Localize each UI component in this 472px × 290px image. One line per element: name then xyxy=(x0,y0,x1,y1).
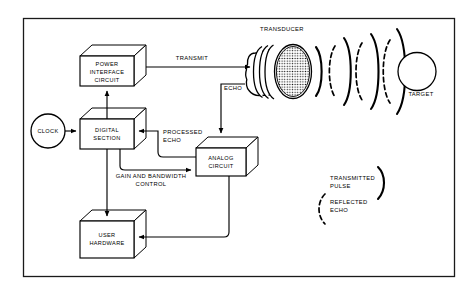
node-analog-circuit[interactable]: ANALOG CIRCUIT xyxy=(196,137,258,176)
legend-transmitted-pulse-line-2: PULSE xyxy=(330,183,351,189)
wire-echo xyxy=(221,84,245,133)
transmitted-arc-1 xyxy=(316,47,322,96)
gain-bandwidth-label-line-2: CONTROL xyxy=(136,181,167,187)
transmitted-arc-3 xyxy=(371,34,379,109)
analog-circuit-front-face xyxy=(196,148,246,176)
node-power-interface-circuit[interactable]: POWER INTERFACE CIRCUIT xyxy=(80,45,146,86)
analog-circuit-label-line-1: ANALOG xyxy=(208,155,233,161)
legend: TRANSMITTED PULSE REFLECTED ECHO xyxy=(319,167,384,224)
wavefronts-reflected xyxy=(329,40,390,103)
legend-reflected-echo-arc xyxy=(319,194,325,224)
legend-reflected-echo-line-1: REFLECTED xyxy=(330,199,368,205)
power-interface-label-line-3: CIRCUIT xyxy=(94,77,119,83)
power-interface-label-line-2: INTERFACE xyxy=(90,69,125,75)
node-transducer[interactable]: TRANSDUCER xyxy=(246,26,312,99)
node-digital-section[interactable]: DIGITAL SECTION xyxy=(80,108,146,149)
transmitted-arc-2 xyxy=(344,38,351,105)
reflected-arc-1 xyxy=(329,46,335,97)
gain-bandwidth-label-line-1: GAIN AND BANDWIDTH xyxy=(116,173,187,179)
legend-transmitted-pulse-arc xyxy=(378,167,384,199)
transmit-label: TRANSMIT xyxy=(176,55,209,61)
analog-circuit-label-line-2: CIRCUIT xyxy=(208,163,233,169)
figure-canvas: POWER INTERFACE CIRCUIT DIGITAL SECTION … xyxy=(0,0,472,290)
power-interface-label-line-1: POWER xyxy=(96,61,119,67)
legend-transmitted-pulse-line-1: TRANSMITTED xyxy=(330,175,375,181)
target-circle xyxy=(398,53,436,91)
echo-label: ECHO xyxy=(224,85,242,91)
transducer-face-stipple xyxy=(276,47,309,97)
digital-section-front-face xyxy=(80,119,134,149)
legend-reflected-echo: REFLECTED ECHO xyxy=(319,194,368,224)
block-diagram: POWER INTERFACE CIRCUIT DIGITAL SECTION … xyxy=(0,0,472,290)
wire-gain-bandwidth-control xyxy=(120,149,191,170)
node-clock[interactable]: CLOCK xyxy=(31,114,65,148)
target-label: TARGET xyxy=(408,91,433,97)
user-hardware-label-line-1: USER xyxy=(99,232,116,238)
digital-section-label-line-1: DIGITAL xyxy=(95,127,119,133)
legend-reflected-echo-line-2: ECHO xyxy=(330,207,348,213)
reflected-arc-2 xyxy=(356,43,362,100)
user-hardware-label-line-2: HARDWARE xyxy=(89,240,124,246)
legend-transmitted-pulse: TRANSMITTED PULSE xyxy=(330,167,384,199)
processed-echo-label-line-1: PROCESSED xyxy=(163,129,203,135)
reflected-arc-3 xyxy=(383,40,390,103)
processed-echo-label-line-2: ECHO xyxy=(163,137,181,143)
node-user-hardware[interactable]: USER HARDWARE xyxy=(80,210,146,258)
digital-section-label-line-2: SECTION xyxy=(93,135,120,141)
clock-label: CLOCK xyxy=(37,128,58,134)
transducer-label: TRANSDUCER xyxy=(260,26,304,32)
